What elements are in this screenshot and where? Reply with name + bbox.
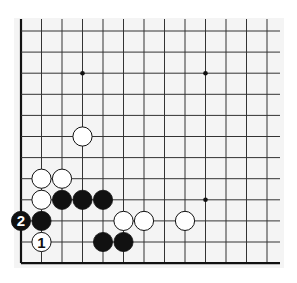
move-number-label: 1: [37, 234, 45, 251]
black-stone: [114, 232, 133, 251]
white-stone: [32, 190, 51, 209]
black-stone: [93, 232, 112, 251]
star-point: [203, 71, 208, 76]
white-stone: [175, 211, 194, 230]
go-board-svg: 21: [0, 0, 297, 283]
white-stone: [114, 211, 133, 230]
move-number-label: 2: [17, 212, 25, 229]
black-stone: [93, 190, 112, 209]
black-stone-2: 2: [11, 211, 30, 230]
white-stone-1: 1: [32, 232, 51, 251]
star-point: [203, 198, 208, 203]
white-stone: [32, 169, 51, 188]
white-stone: [52, 169, 71, 188]
white-stone: [134, 211, 153, 230]
go-board-diagram: 21: [0, 0, 297, 283]
white-stone: [73, 127, 92, 146]
black-stone: [32, 211, 51, 230]
board-background: [14, 18, 284, 268]
black-stone: [52, 190, 71, 209]
black-stone: [73, 190, 92, 209]
star-point: [80, 71, 85, 76]
